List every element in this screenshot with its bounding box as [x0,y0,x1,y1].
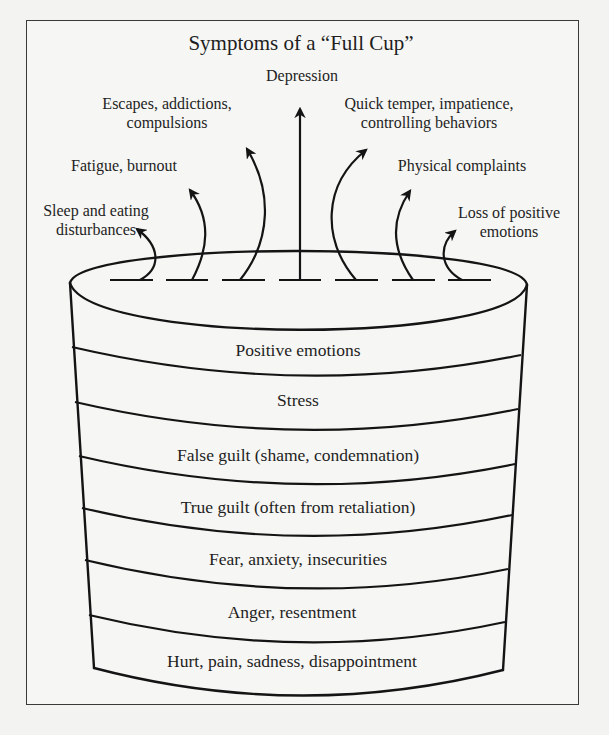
cup-layer-true-guilt: True guilt (often from retaliation) [181,497,416,517]
cup-bottom [94,668,503,696]
cup-layer-anger: Anger, resentment [228,602,357,622]
symptom-sleep-line1: Sleep and eating [43,201,149,220]
symptom-physical-line1: Physical complaints [398,156,526,175]
cup-layer-positive-emotions: Positive emotions [236,340,361,360]
symptom-loss-line1: Loss of positive [458,203,560,222]
diagram-title: Symptoms of a “Full Cup” [188,31,413,55]
cup-layer-false-guilt: False guilt (shame, condemnation) [177,445,419,465]
full-cup-illustration [0,0,609,735]
arrow-temper-icon [332,150,366,280]
symptom-fatigue-line1: Fatigue, burnout [71,156,177,175]
symptom-fatigue: Fatigue, burnout [71,156,177,175]
symptom-temper-line2: controlling behaviors [344,113,513,132]
cup-left-side [70,283,94,668]
symptom-depression: Depression [266,66,338,85]
arrow-fatigue-icon [190,190,205,280]
symptom-escapes: Escapes, addictions, compulsions [102,94,231,132]
cup-layer-stress: Stress [277,390,319,410]
symptom-depression-line1: Depression [266,66,338,85]
cup-right-side [503,285,527,670]
symptom-sleep-line2: disturbances [43,220,149,239]
symptom-escapes-line1: Escapes, addictions, [102,94,231,113]
cup-layer-hurt: Hurt, pain, sadness, disappointment [167,651,417,671]
arrow-escapes-icon [240,149,265,280]
cup-rim-front [70,283,527,330]
arrow-physical-icon [396,191,413,280]
symptom-sleep: Sleep and eating disturbances [43,201,149,239]
symptom-loss-line2: emotions [458,222,560,241]
symptom-temper: Quick temper, impatience, controlling be… [344,94,513,132]
cup-layer-fear: Fear, anxiety, insecurities [209,549,387,569]
symptom-escapes-line2: compulsions [102,113,231,132]
symptom-loss: Loss of positive emotions [458,203,560,241]
symptom-physical: Physical complaints [398,156,526,175]
symptom-temper-line1: Quick temper, impatience, [344,94,513,113]
